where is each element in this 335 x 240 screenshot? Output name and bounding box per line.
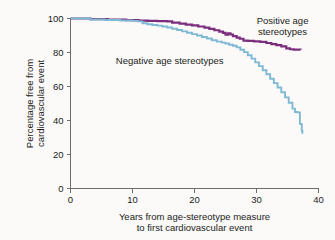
x-tick-label: 0 — [68, 194, 73, 205]
y-axis-title-line2: cardiovascular event — [35, 60, 46, 147]
axis-spine — [71, 19, 319, 189]
chart-figure: 020406080100010203040 Positive agestereo… — [0, 0, 335, 240]
negative-age-stereotypes-label: Negative age stereotypes — [116, 55, 224, 66]
x-tick-label: 10 — [127, 194, 138, 205]
positive-age-stereotypes-label: Positive agestereotypes — [257, 15, 309, 37]
x-tick-label: 40 — [313, 194, 324, 205]
positive-age-stereotypes-label-line2: stereotypes — [258, 26, 307, 37]
y-tick-label: 80 — [53, 47, 64, 58]
y-tick-label: 100 — [48, 13, 64, 24]
axes: 020406080100010203040 — [48, 13, 324, 205]
x-tick-label: 20 — [189, 194, 200, 205]
y-tick-label: 0 — [58, 183, 63, 194]
x-tick-label: 30 — [251, 194, 262, 205]
y-tick-label: 20 — [53, 149, 64, 160]
y-tick-label: 60 — [53, 81, 64, 92]
x-axis-title-line2: to first cardiovascular event — [137, 222, 253, 233]
y-axis-title-line1: Percentage free from — [24, 59, 35, 148]
survival-curve-chart: 020406080100010203040 Positive agestereo… — [0, 0, 335, 240]
x-axis-title-line1: Years from age-stereotype measure — [119, 211, 270, 222]
negative-age-stereotypes-label-line1: Negative age stereotypes — [116, 55, 224, 66]
positive-age-stereotypes-label-line1: Positive age — [257, 15, 309, 26]
y-tick-label: 40 — [53, 115, 64, 126]
